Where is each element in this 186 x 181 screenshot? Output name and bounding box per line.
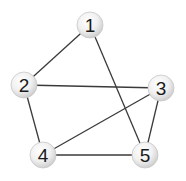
node-3: 3 xyxy=(148,75,174,101)
edge-1-5 xyxy=(90,25,145,155)
node-2: 2 xyxy=(11,72,37,98)
node-label: 2 xyxy=(19,75,30,96)
node-label: 5 xyxy=(140,145,151,166)
edges-group xyxy=(24,25,161,155)
node-label: 4 xyxy=(38,145,49,166)
node-4: 4 xyxy=(30,142,56,168)
node-5: 5 xyxy=(132,142,158,168)
edge-2-3 xyxy=(24,85,161,88)
graph-diagram: 12345 xyxy=(0,0,186,181)
nodes-group: 12345 xyxy=(11,12,174,168)
node-1: 1 xyxy=(77,12,103,38)
node-label: 3 xyxy=(156,78,167,99)
node-label: 1 xyxy=(85,15,96,36)
